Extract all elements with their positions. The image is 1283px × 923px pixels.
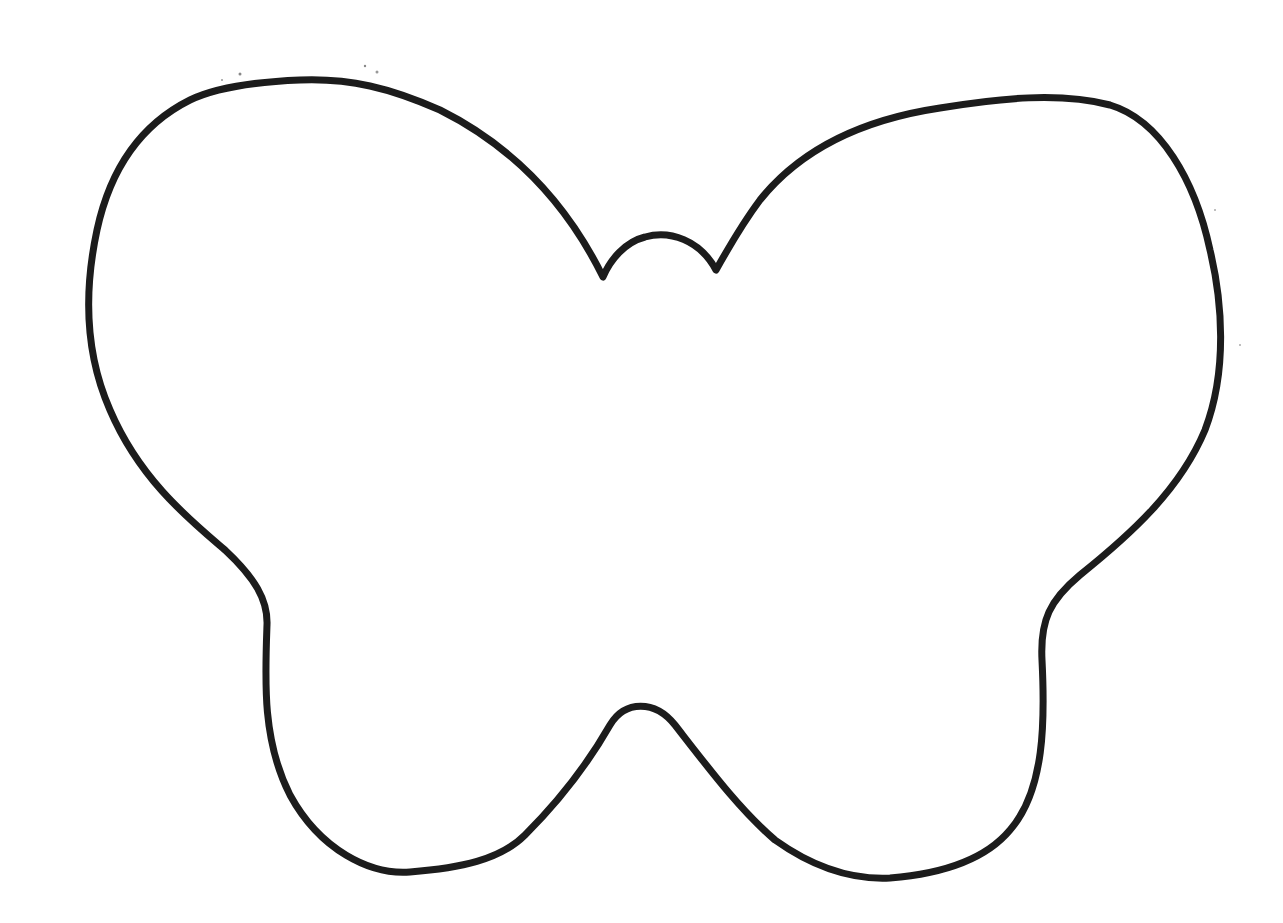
butterfly-outline-canvas (0, 0, 1283, 923)
speck (239, 73, 242, 76)
speck (1214, 209, 1216, 211)
butterfly-outline (89, 80, 1221, 878)
speck (364, 65, 366, 67)
speck (376, 71, 379, 74)
speck (1239, 344, 1241, 346)
speck (221, 79, 223, 81)
